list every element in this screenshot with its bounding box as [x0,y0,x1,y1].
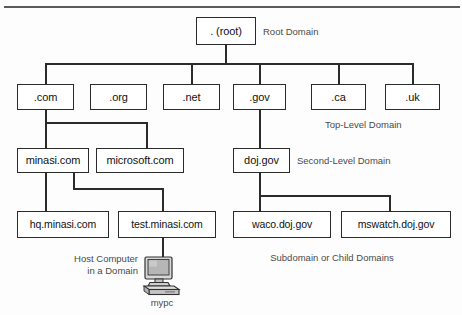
connector-drop-com [45,63,47,84]
caption-host-computer-line2: in a Domain [64,265,138,277]
node-root[interactable]: . (root) [196,17,256,45]
connector-com-children-bus [45,122,147,124]
connector-tld-bus [45,63,413,65]
node-sub-mswatch-doj-gov[interactable]: mswatch.doj.gov [341,211,451,238]
caption-subdomain-or-child-domains: Subdomain or Child Domains [258,252,406,264]
top-divider-rule [4,6,460,8]
connector-drop-gov [259,63,261,84]
connector-minasi-to-test-seg2 [73,188,164,190]
connector-minasi-to-hq [45,173,47,211]
connector-drop-uk [412,63,414,84]
connector-drop-waco [259,195,261,211]
caption-root-domain: Root Domain [263,26,318,38]
connector-root-stem [225,45,227,63]
node-second-minasi-com[interactable]: minasi.com [17,148,89,173]
node-tld-org[interactable]: .org [90,84,147,110]
node-tld-com[interactable]: .com [17,84,74,110]
node-tld-net[interactable]: .net [163,84,220,110]
node-sub-test-minasi-com[interactable]: test.minasi.com [118,211,216,238]
node-sub-hq-minasi-com[interactable]: hq.minasi.com [17,211,109,238]
connector-doj-stem [259,173,261,195]
computer-icon [138,256,186,296]
connector-com-stem [45,110,47,122]
node-second-microsoft-com[interactable]: microsoft.com [96,148,184,173]
node-tld-gov[interactable]: .gov [233,84,286,110]
connector-drop-minasi [45,122,47,148]
connector-doj-children-bus [259,195,390,197]
connector-drop-microsoft [146,122,148,148]
caption-top-level-domain: Top-Level Domain [325,119,402,131]
connector-drop-net [191,63,193,84]
connector-minasi-to-test-seg1 [73,173,75,188]
connector-test-to-mypc [162,238,164,257]
connector-drop-ca [338,63,340,84]
connector-gov-to-doj [259,110,261,148]
node-sub-waco-doj-gov[interactable]: waco.doj.gov [233,211,331,238]
connector-drop-mswatch [389,195,391,211]
dns-hierarchy-diagram: . (root) Root Domain .com .org .net .gov… [0,0,462,315]
caption-computer-name: mypc [137,297,187,309]
caption-host-computer-line1: Host Computer [64,253,138,265]
connector-minasi-to-test-seg3 [162,188,164,211]
node-tld-ca[interactable]: .ca [311,84,366,110]
node-tld-uk[interactable]: .uk [385,84,440,110]
node-second-doj-gov[interactable]: doj.gov [233,148,290,173]
caption-second-level-domain: Second-Level Domain [297,155,390,167]
